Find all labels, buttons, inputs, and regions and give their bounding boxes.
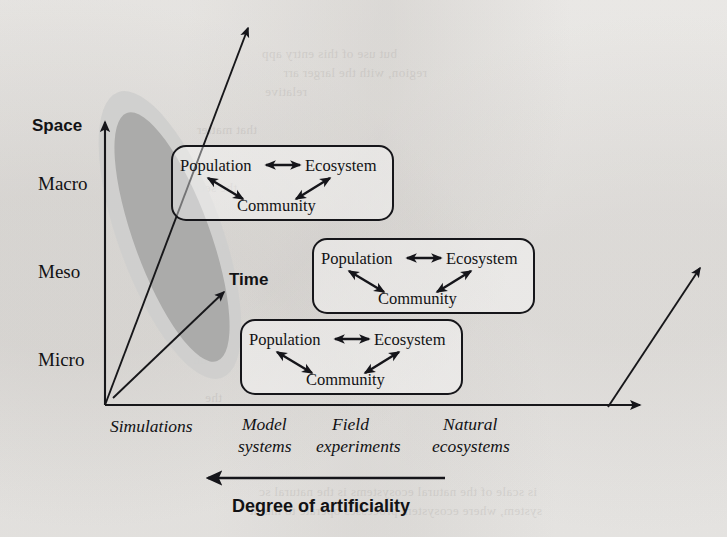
x-tick-natural-line1: Natural xyxy=(442,414,498,434)
space-tick-micro: Micro xyxy=(38,349,84,370)
triad-node-community: Community xyxy=(237,196,317,215)
space-tick-macro: Macro xyxy=(38,173,88,194)
depth-axis-right-line xyxy=(608,268,700,407)
x-tick-field-line2: experiments xyxy=(316,436,401,456)
triad-node-community: Community xyxy=(378,289,458,308)
figure-canvas: but use of this entry app region, with t… xyxy=(0,0,727,537)
triad-node-population: Population xyxy=(180,156,252,175)
space-axis-label: Space xyxy=(32,116,82,135)
triad-meso[interactable]: Population Ecosystem Community xyxy=(313,239,534,313)
diagram-svg: Space Macro Meso Micro Time Simulations … xyxy=(0,0,727,537)
space-tick-meso: Meso xyxy=(38,261,80,282)
triad-node-ecosystem: Ecosystem xyxy=(305,156,377,175)
triad-node-ecosystem: Ecosystem xyxy=(374,330,446,349)
x-tick-field-line1: Field xyxy=(331,414,369,434)
triad-node-community: Community xyxy=(306,370,386,389)
x-tick-model-line2: systems xyxy=(238,436,292,456)
x-tick-model-line1: Model xyxy=(241,414,287,434)
x-tick-natural-line2: ecosystems xyxy=(432,436,510,456)
triad-macro[interactable]: Population Ecosystem Community xyxy=(172,146,393,220)
triad-micro[interactable]: Population Ecosystem Community xyxy=(241,320,462,394)
artificiality-caption: Degree of artificiality xyxy=(232,496,410,516)
x-tick-simulations-line1: Simulations xyxy=(110,416,193,436)
triad-node-population: Population xyxy=(321,249,393,268)
time-axis-label: Time xyxy=(229,270,268,289)
triad-node-population: Population xyxy=(249,330,321,349)
triad-node-ecosystem: Ecosystem xyxy=(446,249,518,268)
